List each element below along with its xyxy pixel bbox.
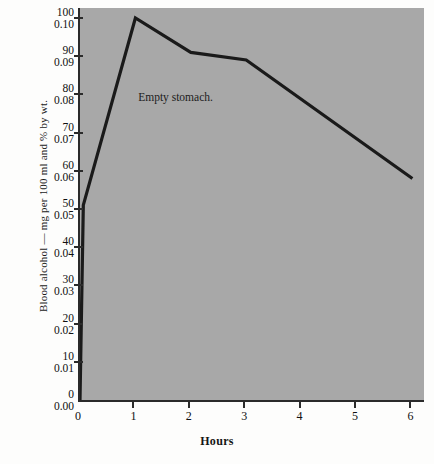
y-tick-percent: 0.04 — [26, 247, 74, 259]
series-line-empty-stomach — [80, 18, 412, 400]
y-axis-tick-labels: 00.00100.01200.02300.03400.04500.05600.0… — [26, 0, 74, 410]
x-tick-mark — [243, 400, 245, 408]
x-tick-mark — [299, 400, 301, 408]
x-tick-label: 0 — [63, 409, 93, 424]
x-tick-label: 1 — [118, 409, 148, 424]
x-tick-label: 3 — [229, 409, 259, 424]
y-tick-mark — [74, 132, 83, 134]
y-tick-label: 300.03 — [26, 273, 74, 297]
y-tick-percent: 0.09 — [26, 56, 74, 68]
y-tick-mark — [74, 170, 83, 172]
x-tick-mark — [354, 400, 356, 408]
y-tick-label: 500.05 — [26, 197, 74, 221]
y-tick-label: 600.06 — [26, 159, 74, 183]
y-tick-mg: 40 — [26, 235, 74, 247]
y-tick-mg: 0 — [26, 388, 74, 400]
y-tick-label: 900.09 — [26, 44, 74, 68]
x-axis-label: Hours — [0, 434, 434, 449]
y-tick-label: 1000.10 — [26, 6, 74, 30]
x-tick-label: 6 — [395, 409, 425, 424]
y-tick-mark — [74, 93, 83, 95]
y-tick-label: 200.02 — [26, 312, 74, 336]
y-tick-mg: 30 — [26, 273, 74, 285]
x-tick-label: 2 — [174, 409, 204, 424]
y-tick-mark — [74, 361, 83, 363]
x-tick-label: 5 — [340, 409, 370, 424]
y-tick-percent: 0.10 — [26, 18, 74, 30]
y-tick-mg: 20 — [26, 312, 74, 324]
y-tick-percent: 0.01 — [26, 362, 74, 374]
y-tick-percent: 0.06 — [26, 171, 74, 183]
x-tick-label: 4 — [285, 409, 315, 424]
y-tick-mark — [74, 55, 83, 57]
y-tick-mg: 100 — [26, 6, 74, 18]
y-tick-mg: 80 — [26, 82, 74, 94]
x-tick-mark — [132, 400, 134, 408]
plot-area: Empty stomach. — [78, 8, 424, 402]
y-tick-mark — [74, 323, 83, 325]
x-tick-mark — [188, 400, 190, 408]
y-tick-mark — [74, 284, 83, 286]
y-tick-mark — [74, 17, 83, 19]
x-tick-mark — [409, 400, 411, 408]
y-tick-percent: 0.03 — [26, 285, 74, 297]
y-tick-mark — [74, 208, 83, 210]
data-line-chart — [80, 8, 426, 402]
y-tick-percent: 0.02 — [26, 324, 74, 336]
chart-figure: Blood alcohol — mg per 100 ml and % by w… — [0, 0, 434, 464]
y-tick-mg: 50 — [26, 197, 74, 209]
y-tick-label: 400.04 — [26, 235, 74, 259]
annotation-empty-stomach: Empty stomach. — [138, 91, 213, 103]
y-tick-mg: 10 — [26, 350, 74, 362]
y-tick-mg: 90 — [26, 44, 74, 56]
y-tick-label: 700.07 — [26, 121, 74, 145]
y-tick-percent: 0.08 — [26, 94, 74, 106]
y-tick-percent: 0.05 — [26, 209, 74, 221]
y-tick-percent: 0.07 — [26, 133, 74, 145]
y-tick-label: 800.08 — [26, 82, 74, 106]
y-tick-mark — [74, 246, 83, 248]
y-tick-mg: 60 — [26, 159, 74, 171]
y-tick-label: 100.01 — [26, 350, 74, 374]
y-tick-mg: 70 — [26, 121, 74, 133]
